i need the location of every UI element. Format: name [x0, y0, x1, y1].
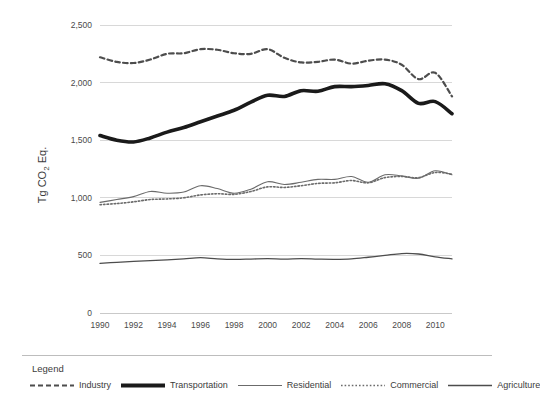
x-tick-label: 1998 — [225, 320, 244, 330]
x-tick-label: 1992 — [124, 320, 143, 330]
y-tick-label: 1,000 — [71, 193, 93, 203]
x-tick-label: 2006 — [359, 320, 378, 330]
series-line-transportation — [100, 84, 452, 142]
x-tick-label: 2002 — [292, 320, 311, 330]
line-chart: 05001,0001,5002,0002,500 199019921994199… — [0, 0, 507, 348]
legend-item-label: Agriculture — [497, 380, 540, 390]
chart-canvas: 05001,0001,5002,0002,500 199019921994199… — [0, 0, 507, 348]
y-axis-title-main: Tg CO — [36, 170, 48, 203]
y-tick-label: 0 — [87, 308, 92, 318]
x-tick-label: 1990 — [91, 320, 110, 330]
legend-item-transportation[interactable]: Transportation — [121, 380, 228, 390]
legend-swatch-dotted — [341, 381, 385, 390]
legend-title: Legend — [32, 363, 492, 374]
legend-item-label: Residential — [287, 380, 332, 390]
data-series-group — [100, 49, 452, 264]
y-axis-title-text: Tg CO2 Eq. — [36, 147, 51, 203]
y-axis-title-tail: Eq. — [36, 147, 48, 167]
legend-items: IndustryTransportationResidentialCommerc… — [30, 380, 492, 390]
y-tick-label: 500 — [78, 250, 92, 260]
x-tick-label: 2008 — [392, 320, 411, 330]
legend-item-residential[interactable]: Residential — [238, 380, 332, 390]
legend-swatch-thin — [238, 381, 282, 390]
y-axis-tick-labels: 05001,0001,5002,0002,500 — [71, 20, 93, 318]
x-tick-label: 1994 — [158, 320, 177, 330]
gridlines — [100, 25, 452, 313]
legend-item-industry[interactable]: Industry — [30, 380, 111, 390]
legend-item-agriculture[interactable]: Agriculture — [448, 380, 540, 390]
legend-swatch-dashed — [30, 381, 74, 390]
y-tick-label: 2,500 — [71, 20, 93, 30]
series-line-commercial — [100, 172, 452, 204]
legend-item-label: Transportation — [170, 380, 228, 390]
x-axis-tick-labels: 1990199219941996199820002002200420062008… — [91, 320, 445, 330]
chart-legend: Legend IndustryTransportationResidential… — [22, 355, 492, 399]
legend-item-label: Industry — [79, 380, 111, 390]
y-tick-label: 2,000 — [71, 78, 93, 88]
legend-item-label: Commercial — [390, 380, 438, 390]
y-axis-title: Tg CO2 Eq. — [36, 147, 51, 203]
x-tick-label: 2010 — [426, 320, 445, 330]
y-tick-label: 1,500 — [71, 135, 93, 145]
legend-swatch-medium — [448, 381, 492, 390]
legend-item-commercial[interactable]: Commercial — [341, 380, 438, 390]
x-tick-label: 2000 — [258, 320, 277, 330]
x-tick-label: 2004 — [325, 320, 344, 330]
x-tick-label: 1996 — [191, 320, 210, 330]
legend-swatch-thick — [121, 381, 165, 390]
